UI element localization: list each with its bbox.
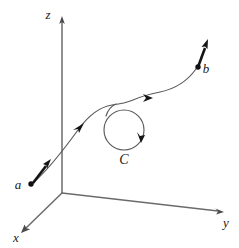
point-a-dot xyxy=(28,181,33,186)
tangent-b-arrowhead-icon xyxy=(202,39,209,49)
axis-group xyxy=(21,16,224,233)
axis-x xyxy=(21,193,62,233)
axis-y-line xyxy=(62,193,218,211)
figure-canvas: z y x a b C xyxy=(0,0,239,248)
axis-x-line xyxy=(26,193,62,228)
curve-direction-arrowhead-1-icon xyxy=(73,123,84,133)
loop-c-circle xyxy=(104,110,144,150)
tangent-a-shaft xyxy=(33,166,46,183)
curve-path-a-to-b xyxy=(33,69,196,183)
axis-y xyxy=(62,193,224,215)
point-b-dot xyxy=(195,64,200,69)
point-label-b: b xyxy=(203,61,210,76)
loop-c-group xyxy=(104,110,145,150)
tangent-vector-a xyxy=(28,159,51,187)
axis-label-x: x xyxy=(12,230,19,245)
diagram-svg: z y x a b C xyxy=(0,0,239,248)
axis-label-z: z xyxy=(44,7,50,22)
point-label-a: a xyxy=(15,177,22,192)
loop-label-c: C xyxy=(119,152,129,167)
axis-label-y: y xyxy=(221,215,229,230)
axis-z xyxy=(59,16,65,193)
curve-group xyxy=(33,69,196,183)
